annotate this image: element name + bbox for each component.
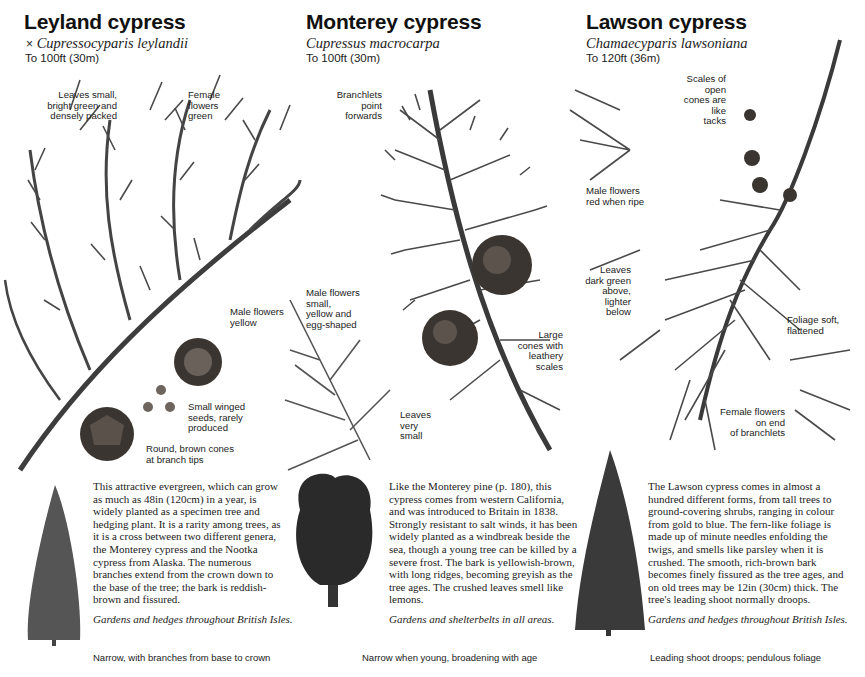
annotation-monterey-leaves: Leaves very small xyxy=(400,410,431,442)
caption-leyland: Narrow, with branches from base to crown xyxy=(93,652,270,663)
caption-lawson: Leading shoot droops; pendulous foliage xyxy=(650,652,821,663)
annotation-leyland-male-flowers: Male flowers yellow xyxy=(230,307,284,328)
hybrid-marker: × xyxy=(26,37,33,51)
annotation-leyland-leaves: Leaves small, bright green and densely p… xyxy=(28,90,117,122)
annotation-monterey-male-flowers: Male flowers small, yellow and egg-shape… xyxy=(306,288,360,330)
habitat-lawson: Gardens and hedges throughout British Is… xyxy=(648,613,848,625)
annotation-lawson-male-flowers: Male flowers red when ripe xyxy=(586,186,644,207)
description-lawson: The Lawson cypress comes in almost a hun… xyxy=(648,480,853,606)
annotation-monterey-branchlets: Branchlets point forwards xyxy=(320,90,382,122)
latin-name-leyland-text: Cupressocyparis leylandii xyxy=(37,35,188,51)
monterey-branch-illustration xyxy=(381,90,560,450)
monterey-tree-silhouette xyxy=(296,474,372,585)
field-guide-page: Leyland cypress × Cupressocyparis leylan… xyxy=(0,0,865,677)
leyland-branch-illustration xyxy=(5,75,300,470)
annotation-lawson-cone-scales: Scales of open cones are like tacks xyxy=(680,74,726,127)
annotation-lawson-leaves: Leaves dark green above, lighter below xyxy=(580,265,631,318)
description-leyland: This attractive evergreen, which can gro… xyxy=(93,480,289,606)
annotation-leyland-seeds: Small winged seeds, rarely produced xyxy=(188,402,245,434)
species-title-lawson: Lawson cypress xyxy=(586,10,747,34)
height-lawson: To 120ft (36m) xyxy=(586,52,660,64)
species-title-monterey: Monterey cypress xyxy=(306,10,481,34)
height-leyland: To 100ft (30m) xyxy=(25,52,99,64)
annotation-monterey-cones: Large cones with leathery scales xyxy=(510,330,563,372)
annotation-leyland-female-flowers: Female flowers green xyxy=(188,90,220,122)
annotation-lawson-female-flowers: Female flowers on end of branchlets xyxy=(700,407,785,439)
species-title-leyland: Leyland cypress xyxy=(24,10,186,34)
latin-name-monterey: Cupressus macrocarpa xyxy=(306,35,440,52)
leyland-tree-silhouette xyxy=(28,485,81,640)
annotation-leyland-cones: Round, brown cones at branch tips xyxy=(146,444,234,465)
latin-name-lawson: Chamaecyparis lawsoniana xyxy=(586,35,748,52)
height-monterey: To 100ft (30m) xyxy=(306,52,380,64)
caption-monterey: Narrow when young, broadening with age xyxy=(362,652,537,663)
description-monterey: Like the Monterey pine (p. 180), this cy… xyxy=(389,480,579,606)
lawson-tree-silhouette xyxy=(575,450,645,630)
latin-name-leyland: × Cupressocyparis leylandii xyxy=(26,35,188,52)
habitat-monterey: Gardens and shelterbelts in all areas. xyxy=(389,613,554,625)
habitat-leyland: Gardens and hedges throughout British Is… xyxy=(93,613,293,625)
annotation-lawson-foliage: Foliage soft, flattened xyxy=(787,315,839,336)
